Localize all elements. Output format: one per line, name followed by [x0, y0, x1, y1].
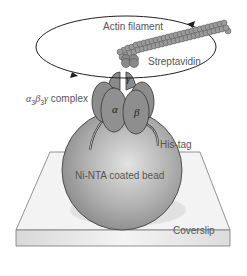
beta-subunit-label: β	[134, 107, 139, 118]
his-tag-label: His-tag	[160, 140, 192, 150]
complex-label: α3β3γ complex	[26, 94, 88, 106]
complex-word: complex	[48, 93, 88, 104]
actin-filament-label: Actin filament	[103, 22, 163, 32]
alpha-subunit-label: α	[112, 104, 118, 115]
streptavidin	[122, 55, 139, 68]
streptavidin-label: Streptavidin	[148, 57, 201, 67]
gamma-subunit-label: γ	[126, 73, 130, 84]
coverslip-label: Coverslip	[173, 226, 215, 236]
bead-label: Ni-NTA coated bead	[75, 171, 164, 181]
